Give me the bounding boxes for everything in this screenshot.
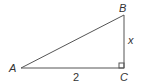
triangle-abc (21, 15, 124, 68)
side-label-bc: x (127, 34, 134, 46)
side-label-ac: 2 (73, 71, 79, 83)
triangle-diagram: A B C x 2 (0, 0, 142, 84)
vertex-label-a: A (8, 62, 16, 74)
vertex-label-c: C (120, 71, 128, 83)
vertex-label-b: B (119, 2, 126, 14)
right-angle-marker (119, 63, 124, 68)
